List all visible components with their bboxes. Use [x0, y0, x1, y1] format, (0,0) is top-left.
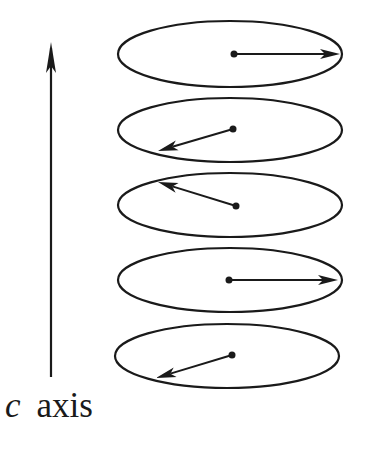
spin-arrow-icon	[172, 129, 233, 147]
spin-origin-dot	[229, 352, 236, 359]
axis-label: caxis	[5, 388, 93, 423]
spin-layers	[115, 21, 342, 388]
spin-layer-2	[118, 98, 342, 162]
spin-origin-dot	[233, 203, 240, 210]
axis-variable: c	[5, 386, 21, 425]
spin-arrow-icon	[172, 186, 236, 206]
spin-origin-dot	[231, 51, 238, 58]
spin-arrow-icon	[170, 355, 232, 374]
spin-layer-3	[118, 173, 342, 237]
c-axis-arrow-icon	[46, 42, 56, 377]
axis-label-text: axis	[37, 386, 93, 425]
spin-layer-1	[118, 21, 342, 87]
spin-origin-dot	[226, 277, 233, 284]
spin-origin-dot	[230, 126, 237, 133]
spin-layer-5	[115, 324, 339, 388]
spin-layer-4	[118, 248, 342, 312]
